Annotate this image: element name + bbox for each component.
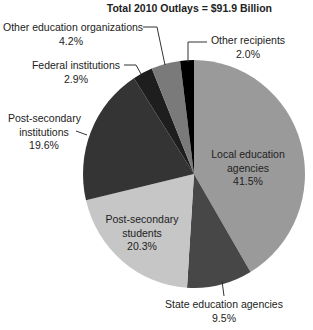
label-value: 20.3%: [100, 240, 184, 254]
label-text: Local education: [206, 148, 290, 162]
label-text: institutions: [8, 126, 80, 140]
label-text: Other recipients: [208, 34, 288, 48]
leader-federal: [124, 65, 141, 74]
label-other-education-organizations: Other education organizations 4.2%: [3, 21, 139, 48]
label-text: Federal institutions: [30, 59, 122, 73]
label-state-education-agencies: State education agencies 9.5%: [162, 298, 286, 325]
label-value: 4.2%: [3, 35, 139, 49]
label-text: students: [100, 227, 184, 241]
leader-other-recip: [188, 42, 207, 62]
leader-other-ed: [143, 27, 165, 65]
label-value: 2.0%: [208, 48, 288, 62]
label-text: Post-secondary: [100, 213, 184, 227]
label-value: 41.5%: [206, 175, 290, 189]
label-value: 19.6%: [8, 139, 80, 153]
label-other-recipients: Other recipients 2.0%: [208, 34, 288, 61]
label-federal-institutions: Federal institutions 2.9%: [30, 59, 122, 86]
label-text: State education agencies: [162, 298, 286, 312]
label-value: 2.9%: [30, 73, 122, 87]
label-local-education-agencies: Local education agencies 41.5%: [206, 148, 290, 189]
label-value: 9.5%: [162, 312, 286, 326]
label-text: Post-secondary: [8, 112, 80, 126]
label-text: agencies: [206, 162, 290, 176]
label-post-secondary-students: Post-secondary students 20.3%: [100, 213, 184, 254]
label-post-secondary-institutions: Post-secondary institutions 19.6%: [8, 112, 80, 153]
label-text: Other education organizations: [3, 21, 139, 35]
